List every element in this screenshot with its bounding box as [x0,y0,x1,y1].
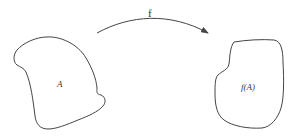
arrow-label: f [148,7,152,19]
mapping-arrow [97,18,208,33]
set-a-label: A [56,79,63,89]
function-mapping-diagram: f A f(A) [0,0,296,136]
set-fa-label: f(A) [241,82,255,92]
